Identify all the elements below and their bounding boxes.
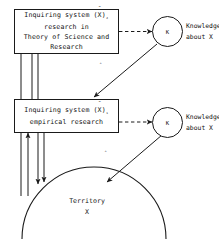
upper-box-line1: Inquiring system ˆ (X) ₂ (24, 10, 108, 21)
upper-knowledge-label-symbol: ˆX (209, 32, 213, 43)
upper-box-symbol-hat: ˆ (94, 6, 106, 12)
lower-inquiring-system-box[interactable]: Inquiring system ˆ (X) ₁ empirical resea… (14, 99, 119, 133)
edge-lower-circle-to-territory (107, 135, 162, 182)
upper-knowledge-label: Knowledge about ˆX (186, 21, 219, 42)
upper-knowledge-circle[interactable]: K (152, 16, 183, 47)
lower-box-line1-prefix: Inquiring system (24, 106, 89, 114)
lower-diagonal-edge-glyph: ˆ (104, 150, 107, 156)
lower-knowledge-label-line2: about X (186, 123, 219, 134)
territory-label: Territory X (48, 196, 126, 218)
lower-box-symbol: ˆ (X) (94, 105, 106, 115)
territory-label-line1: Territory (48, 196, 126, 207)
lower-box-symbol-hat: ˆ (94, 101, 106, 107)
lower-knowledge-label-line1: Knowledge (186, 112, 219, 123)
upper-box-line3: Theory of Science and (24, 32, 109, 42)
upper-inquiring-system-box[interactable]: Inquiring system ˆ (X) ₂ research in The… (14, 9, 119, 54)
lower-box-line2: empirical research (30, 117, 103, 127)
upper-box-line4: Research (50, 42, 83, 52)
upper-knowledge-label-line2: about ˆX (186, 32, 219, 43)
upper-knowledge-label-line1: Knowledge (186, 21, 219, 32)
upper-diagonal-edge-glyph: ˆ (99, 62, 102, 68)
upper-knowledge-label-symbol-hat: ˆ (209, 27, 213, 33)
upper-knowledge-label-line2-prefix: about (186, 33, 209, 41)
lower-box-symbol-subscript: ₁ (106, 110, 109, 115)
lower-knowledge-label: Knowledge about X (186, 112, 219, 133)
upper-box-symbol: ˆ (X) (94, 10, 106, 20)
lower-knowledge-circle-label: K (166, 120, 169, 126)
lower-knowledge-circle[interactable]: K (152, 107, 183, 138)
lower-box-line1: Inquiring system ˆ (X) ₁ (24, 105, 108, 116)
upper-box-line2: research in (44, 22, 89, 32)
upper-box-symbol-subscript: ₂ (106, 16, 109, 21)
upper-knowledge-circle-label: K (166, 29, 169, 35)
territory-label-line2: X (48, 207, 126, 218)
upper-box-line1-prefix: Inquiring system (24, 11, 89, 19)
diagram-canvas: Inquiring system ˆ (X) ₂ research in The… (0, 0, 219, 239)
